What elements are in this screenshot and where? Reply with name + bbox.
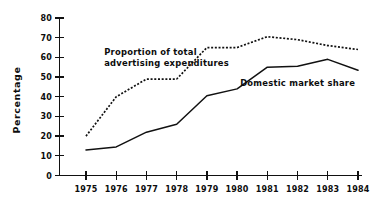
series-line-domestic-market-share	[86, 59, 358, 150]
x-axis-ticks: 1975197619771978197919801981198219831984	[74, 171, 369, 194]
x-tick-label: 1975	[74, 185, 97, 194]
x-tick-label: 1983	[316, 185, 339, 194]
y-tick-label: 50	[40, 73, 52, 82]
chart-axes	[60, 18, 363, 176]
annotation-line: advertising expenditures	[104, 58, 229, 68]
x-tick-label: 1978	[165, 185, 188, 194]
x-tick-label: 1981	[256, 185, 279, 194]
y-tick-label: 40	[40, 93, 52, 102]
annotation-domestic: Domestic market share	[240, 78, 355, 88]
y-tick-label: 30	[40, 112, 52, 121]
x-tick-label: 1977	[135, 185, 158, 194]
y-axis-title-label: Percentage	[11, 66, 22, 133]
x-tick-label: 1982	[286, 185, 309, 194]
y-tick-label: 10	[40, 152, 52, 161]
x-tick-label: 1976	[105, 185, 128, 194]
annotation-line: Proportion of total	[104, 47, 197, 57]
annotation-line: Domestic market share	[240, 78, 355, 88]
chart-container: Percentage 01020304050607080 19751976197…	[0, 0, 384, 206]
line-chart: Percentage 01020304050607080 19751976197…	[0, 0, 384, 206]
annotation-advertising: Proportion of totaladvertising expenditu…	[104, 47, 229, 68]
y-tick-label: 70	[40, 34, 52, 43]
y-tick-label: 0	[46, 172, 52, 181]
y-tick-label: 80	[40, 14, 52, 23]
y-axis-title: Percentage	[11, 66, 22, 133]
y-tick-label: 60	[40, 53, 52, 62]
y-axis-ticks: 01020304050607080	[40, 14, 64, 181]
x-tick-label: 1979	[195, 185, 218, 194]
x-tick-label: 1984	[346, 185, 369, 194]
x-tick-label: 1980	[226, 185, 249, 194]
y-tick-label: 20	[40, 132, 52, 141]
